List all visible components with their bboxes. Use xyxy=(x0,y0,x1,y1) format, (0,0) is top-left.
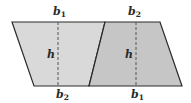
left-top-base-label: b1 xyxy=(53,5,66,19)
right-top-base-label: b2 xyxy=(128,5,141,19)
right-height-label: h xyxy=(125,48,133,61)
left-bottom-base-label: b2 xyxy=(56,88,69,102)
trapezoid-parallelogram-diagram: b1 h b2 b2 h b1 xyxy=(0,0,191,103)
left-height-label: h xyxy=(47,48,55,61)
right-bottom-base-label: b1 xyxy=(131,88,144,102)
